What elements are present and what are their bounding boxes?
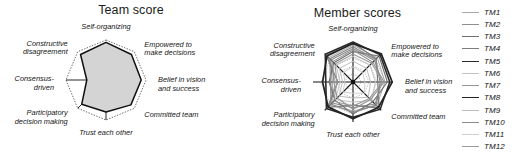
member-radar-plot <box>313 42 393 122</box>
legend-label: TM10 <box>484 118 505 127</box>
legend-line-swatch <box>462 134 479 135</box>
axis-label: Consensus-driven <box>15 74 55 92</box>
axis-label: Consensus-driven <box>262 76 302 94</box>
legend-item[interactable]: TM8 <box>458 92 517 104</box>
legend-label: TM3 <box>484 32 500 41</box>
axis-label: Constructivedisagreement <box>23 39 69 57</box>
axis-label: Self-organizing <box>328 24 378 33</box>
legend-line-swatch <box>462 97 479 98</box>
legend-line-swatch <box>462 122 479 123</box>
axis-label: Participatorydecision making <box>262 110 316 128</box>
legend-line-swatch <box>462 12 479 13</box>
axis-label: Constructivedisagreement <box>270 41 316 59</box>
axis-label: Empowered tomake decisions <box>391 42 442 60</box>
axis-label: Empowered tomake decisions <box>144 40 195 58</box>
team-score-polygon <box>81 42 142 112</box>
legend-label: TM2 <box>484 20 500 29</box>
legend: TM1TM2TM3TM4TM5TM6TM7TM8TM9TM10TM11TM12 <box>458 6 517 154</box>
legend-line-swatch <box>462 61 479 62</box>
legend-item[interactable]: TM1 <box>458 6 517 18</box>
team-radar-svg: Self-organizingEmpowered tomake decision… <box>0 0 262 156</box>
legend-line-swatch <box>462 73 479 74</box>
legend-item[interactable]: TM7 <box>458 80 517 92</box>
legend-item[interactable]: TM4 <box>458 43 517 55</box>
team-score-chart: Team score Self-organizingEmpowered toma… <box>0 0 262 156</box>
legend-label: TM1 <box>484 8 500 17</box>
legend-item[interactable]: TM10 <box>458 116 517 128</box>
legend-label: TM7 <box>484 81 500 90</box>
legend-line-swatch <box>462 24 479 25</box>
legend-label: TM9 <box>484 106 500 115</box>
legend-item[interactable]: TM5 <box>458 55 517 67</box>
axis-label: Belief in visionand success <box>405 77 452 95</box>
legend-item[interactable]: TM12 <box>458 141 517 153</box>
axis-label: Participatorydecision making <box>15 108 69 126</box>
legend-line-swatch <box>462 85 479 86</box>
figure-root: Team score Self-organizingEmpowered toma… <box>0 0 517 156</box>
team-radar-plot <box>66 40 146 120</box>
radar-center-hub <box>351 80 355 84</box>
axis-label: Belief in visionand success <box>158 75 205 93</box>
legend-item[interactable]: TM3 <box>458 31 517 43</box>
legend-label: TM6 <box>484 69 500 78</box>
member-scores-chart: Member scores Self-organizingEmpowered t… <box>255 0 460 156</box>
member-radar-svg: Self-organizingEmpowered tomake decision… <box>255 0 460 156</box>
member-chart-title: Member scores <box>255 6 460 20</box>
legend-item[interactable]: TM2 <box>458 18 517 30</box>
axis-label: Self-organizing <box>81 22 131 31</box>
axis-label: Committed team <box>144 110 198 119</box>
legend-item[interactable]: TM11 <box>458 129 517 141</box>
team-chart-title: Team score <box>0 3 262 17</box>
legend-line-swatch <box>462 146 479 147</box>
legend-item[interactable]: TM6 <box>458 67 517 79</box>
legend-line-swatch <box>462 36 479 37</box>
legend-label: TM8 <box>484 93 500 102</box>
legend-line-swatch <box>462 48 479 49</box>
legend-line-swatch <box>462 110 479 111</box>
legend-label: TM5 <box>484 57 500 66</box>
axis-label: Committed team <box>391 112 445 121</box>
legend-item[interactable]: TM9 <box>458 104 517 116</box>
legend-label: TM12 <box>484 142 505 151</box>
axis-label: Trust each other <box>79 128 133 137</box>
legend-label: TM11 <box>484 130 504 139</box>
axis-label: Trust each other <box>326 130 380 139</box>
legend-label: TM4 <box>484 44 500 53</box>
